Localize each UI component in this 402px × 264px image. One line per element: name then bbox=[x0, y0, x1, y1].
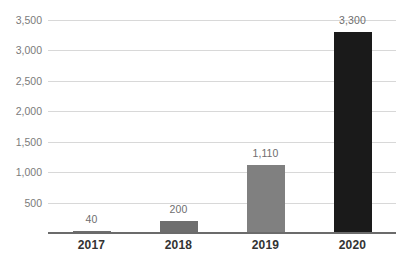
bar-chart: 3,500 3,000 2,500 2,000 1,500 1,000 500 … bbox=[0, 0, 402, 264]
bar-slot-2018: 200 bbox=[135, 0, 222, 233]
bar-value-label: 200 bbox=[170, 203, 188, 215]
x-axis-line bbox=[48, 232, 396, 234]
x-axis-label-2019: 2019 bbox=[222, 238, 309, 252]
y-axis-tick-label: 1,000 bbox=[0, 166, 42, 178]
y-axis-tick-label: 3,500 bbox=[0, 14, 42, 26]
x-axis-label-2018: 2018 bbox=[135, 238, 222, 252]
bar-2019[interactable] bbox=[247, 165, 285, 233]
y-axis-tick-label: 1,500 bbox=[0, 136, 42, 148]
bar-value-label: 1,110 bbox=[253, 147, 279, 159]
bar-slot-2019: 1,110 bbox=[222, 0, 309, 233]
x-axis-category-labels: 2017 2018 2019 2020 bbox=[48, 238, 396, 260]
y-axis-tick-label: 3,000 bbox=[0, 44, 42, 56]
y-axis-tick-label: 2,500 bbox=[0, 75, 42, 87]
bar-slot-2017: 40 bbox=[48, 0, 135, 233]
bar-value-label: 40 bbox=[86, 213, 98, 225]
bar-series: 40 200 1,110 3,300 bbox=[48, 0, 396, 233]
y-axis-tick-label: 2,000 bbox=[0, 105, 42, 117]
bar-slot-2020: 3,300 bbox=[309, 0, 396, 233]
bar-value-label: 3,300 bbox=[339, 14, 366, 26]
x-axis-label-2017: 2017 bbox=[48, 238, 135, 252]
x-axis-label-2020: 2020 bbox=[309, 238, 396, 252]
y-axis-tick-label: 500 bbox=[0, 197, 42, 209]
bar-2020[interactable] bbox=[334, 32, 372, 233]
